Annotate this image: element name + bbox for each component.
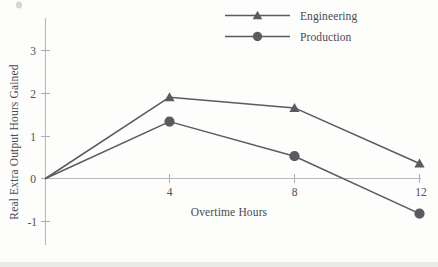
legend-label-engineering: Engineering: [300, 10, 357, 23]
y-axis-title: Real Extra Output Hours Gained: [8, 64, 21, 219]
circle-marker-production-12: [414, 209, 424, 219]
line-chart: 3 2 1 0 -1 4 8 12 Real Extra Output Hour…: [0, 0, 438, 267]
legend-item-engineering[interactable]: Engineering: [225, 10, 357, 23]
scan-bottom-edge: [0, 262, 438, 267]
legend-label-production: Production: [300, 31, 352, 43]
circle-marker-production-8: [289, 151, 299, 161]
y-tick-label-2: 2: [30, 88, 36, 100]
x-tick-label-4: 4: [167, 186, 173, 198]
circle-marker-legend-production: [253, 32, 262, 41]
y-tick-label-3: 3: [30, 45, 36, 57]
x-tick-label-8: 8: [292, 186, 298, 198]
y-tick-label-neg1: -1: [27, 216, 37, 228]
legend-item-production[interactable]: Production: [225, 31, 352, 43]
y-tick-label-0: 0: [30, 173, 36, 185]
series-line-production: [46, 122, 420, 214]
x-axis-title: Overtime Hours: [191, 206, 268, 218]
triangle-marker-engineering-4: [164, 92, 174, 101]
y-tick-label-1: 1: [30, 131, 36, 143]
series-line-engineering: [46, 97, 420, 178]
legend: Engineering Production: [225, 10, 357, 43]
x-tick-label-12: 12: [415, 186, 427, 198]
scan-speck: [16, 1, 22, 8]
chart-figure: 3 2 1 0 -1 4 8 12 Real Extra Output Hour…: [0, 0, 438, 267]
triangle-marker-engineering-12: [414, 159, 424, 168]
circle-marker-production-4: [164, 117, 174, 127]
